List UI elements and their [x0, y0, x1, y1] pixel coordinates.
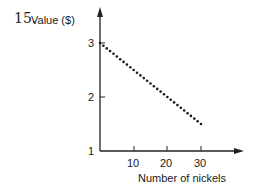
data-point — [132, 69, 135, 72]
data-point — [163, 93, 166, 96]
y-ticks: 3 2 1 — [88, 37, 105, 157]
data-point — [109, 50, 112, 53]
data-point — [129, 66, 132, 69]
data-point — [176, 104, 179, 107]
data-point — [173, 101, 176, 104]
y-tick-label: 2 — [88, 91, 94, 103]
x-ticks: 10 20 30 — [127, 146, 206, 169]
x-axis-arrow-icon — [234, 148, 244, 154]
x-axis-label: Number of nickels — [138, 172, 227, 184]
data-point — [142, 77, 145, 80]
y-axis-label: Value ($) — [31, 14, 75, 26]
data-point — [193, 117, 196, 120]
data-point — [146, 80, 149, 83]
chart-figure: 15. Value ($) Number of nickels 3 2 1 10… — [0, 0, 254, 196]
chart-canvas: Value ($) Number of nickels 3 2 1 10 20 … — [0, 0, 254, 196]
y-axis-arrow-icon — [97, 7, 103, 17]
data-point — [116, 55, 119, 58]
x-tick-label: 20 — [160, 157, 172, 169]
data-point — [186, 112, 189, 115]
data-point — [166, 96, 169, 99]
data-point — [136, 71, 139, 74]
data-point — [190, 115, 193, 118]
data-point — [126, 63, 129, 66]
data-point — [156, 88, 159, 91]
data-point — [99, 42, 102, 45]
data-point — [180, 107, 183, 110]
data-point — [112, 53, 115, 56]
data-point — [119, 58, 122, 61]
data-point — [139, 74, 142, 77]
y-tick-label: 1 — [88, 145, 94, 157]
data-point — [169, 98, 172, 101]
x-tick-label: 10 — [127, 157, 139, 169]
data-point — [102, 44, 105, 47]
data-point — [159, 90, 162, 93]
problem-number: 15. — [14, 10, 36, 26]
data-point — [149, 82, 152, 85]
data-point — [183, 109, 186, 112]
data-point — [196, 120, 199, 123]
y-tick-label: 3 — [88, 37, 94, 49]
x-tick-label: 30 — [194, 157, 206, 169]
data-point — [122, 61, 125, 64]
data-point — [105, 47, 108, 50]
data-point — [200, 123, 203, 126]
data-point — [153, 85, 156, 88]
data-series-dots — [99, 42, 203, 126]
